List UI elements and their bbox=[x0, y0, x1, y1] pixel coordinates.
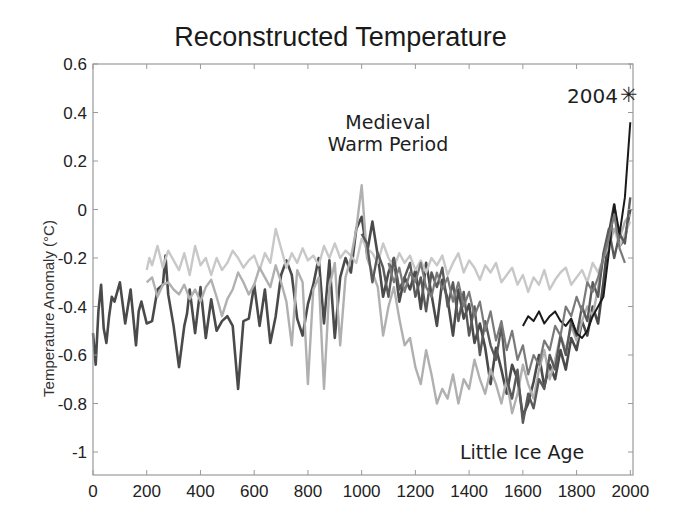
series-line-1 bbox=[93, 205, 630, 416]
y-tick-label: -0.2 bbox=[58, 249, 87, 268]
x-tick-label: 1800 bbox=[558, 482, 596, 501]
x-tick-label: 2000 bbox=[611, 482, 649, 501]
annotation-line-2: Warm Period bbox=[300, 134, 476, 156]
x-tick-label: 200 bbox=[133, 482, 161, 501]
x-tick-label: 1200 bbox=[396, 482, 434, 501]
y-tick-label: -0.4 bbox=[58, 298, 87, 317]
star-marker-icon: ✳ bbox=[620, 83, 638, 107]
series-line-4 bbox=[362, 197, 631, 423]
annotation-line-1: Medieval bbox=[300, 112, 476, 134]
y-tick-label: -0.6 bbox=[58, 346, 87, 365]
y-tick-label: -1 bbox=[72, 443, 87, 462]
series-line-2 bbox=[147, 222, 631, 292]
y-tick-label: 0.4 bbox=[63, 104, 87, 123]
x-tick-label: 0 bbox=[88, 482, 97, 501]
x-tick-label: 600 bbox=[240, 482, 268, 501]
series-line-3 bbox=[147, 185, 631, 413]
annotation-little-ice-age: Little Ice Age bbox=[460, 442, 584, 464]
x-tick-label: 1400 bbox=[450, 482, 488, 501]
annotation-2004: 2004 bbox=[567, 85, 618, 108]
y-tick-label: 0.6 bbox=[63, 55, 87, 74]
y-tick-label: -0.8 bbox=[58, 395, 87, 414]
x-tick-label: 1000 bbox=[343, 482, 381, 501]
y-tick-label: 0 bbox=[78, 201, 87, 220]
series-layer bbox=[93, 122, 630, 423]
annotation-medieval-warm-period: Medieval Warm Period bbox=[300, 112, 476, 156]
x-tick-label: 800 bbox=[294, 482, 322, 501]
y-tick-label: 0.2 bbox=[63, 152, 87, 171]
x-tick-label: 1600 bbox=[504, 482, 542, 501]
x-tick-label: 400 bbox=[186, 482, 214, 501]
